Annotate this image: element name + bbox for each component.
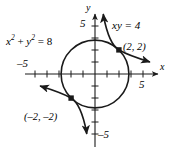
circle-equation-label: x2 + y2 = 8 — [6, 36, 52, 47]
y-axis-label: y — [86, 3, 90, 13]
x-axis-label: x — [160, 62, 164, 72]
x-tick-label-neg5: –5 — [17, 58, 28, 69]
point-label-neg2-neg2: (–2, –2) — [24, 112, 57, 123]
x-tick-label-5: 5 — [139, 79, 145, 90]
circle-eq-plus: + — [15, 35, 27, 47]
y-tick-label-5: 5 — [80, 18, 86, 29]
x-axis — [25, 71, 158, 78]
hyperbola-branch-q3 — [40, 86, 87, 132]
graph-figure: x2 + y2 = 8 xy = 4 (2, 2) (–2, –2) –5 5 … — [0, 0, 175, 155]
hyperbola-equation-label: xy = 4 — [112, 20, 140, 31]
coordinate-plot — [0, 0, 175, 155]
circle-eq-rhs: = 8 — [35, 35, 52, 47]
intersection-marker-2-2 — [116, 47, 121, 52]
y-tick-label-neg5: –5 — [98, 129, 109, 140]
point-label-2-2: (2, 2) — [123, 42, 146, 53]
intersection-marker-neg2-neg2 — [68, 95, 73, 100]
